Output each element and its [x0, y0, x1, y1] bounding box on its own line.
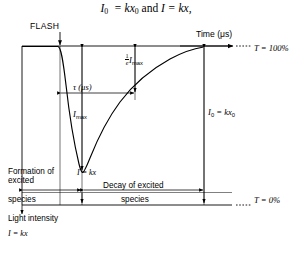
light-intensity-equation: I = kx — [8, 230, 28, 239]
t-100-percent-label: T = 100% — [254, 44, 289, 53]
formation-line-2: excited — [8, 176, 34, 185]
transmittance-curve — [22, 47, 204, 173]
tau-label: τ (μs) — [73, 83, 92, 92]
decay-species-label: species — [121, 196, 149, 205]
formation-species-label: species — [8, 196, 36, 205]
one-over-e-imax-label: 1 e Imax — [125, 53, 143, 66]
time-axis-label: Time (μs) — [196, 30, 232, 39]
decay-caption: Decay of excited — [103, 182, 164, 191]
flash-label: FLASH — [30, 22, 59, 31]
formation-caption: Formation of excited — [8, 168, 54, 185]
i-equals-kx-minimum-label: I = kx — [77, 169, 96, 177]
light-intensity-label: Light intensity — [8, 215, 58, 224]
i0-equals-kx0-label: I0 = kx0 — [208, 108, 235, 118]
imax-label: Imax — [73, 110, 87, 120]
t-0-percent-label: T = 0% — [254, 196, 280, 205]
